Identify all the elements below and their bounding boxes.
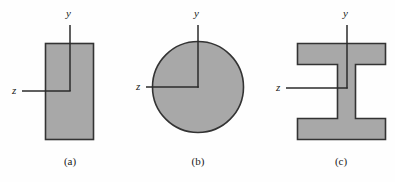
- panel-b-graphics: [146, 25, 244, 133]
- panel-c-graphics: [286, 25, 386, 140]
- panel-c-y-label: y: [343, 8, 348, 19]
- panel-c-caption: (c): [330, 156, 352, 167]
- panel-a-y-label: y: [66, 8, 71, 19]
- panel-b-z-label: z: [136, 81, 140, 92]
- panel-a-graphics: [22, 25, 94, 140]
- cross-section-figure: y z (a) y z (b) y z (c): [0, 0, 395, 182]
- panel-c-z-label: z: [276, 82, 280, 93]
- panel-b-caption: (b): [187, 156, 209, 167]
- panel-a-caption: (a): [59, 156, 81, 167]
- panel-b-y-label: y: [194, 8, 199, 19]
- panel-a-z-label: z: [12, 85, 16, 96]
- ibeam-cross-section: [298, 44, 386, 140]
